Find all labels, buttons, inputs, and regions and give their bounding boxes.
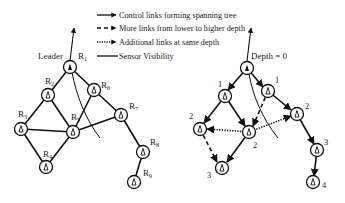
legend-item-control-links: Control links forming spanning tree (97, 11, 237, 20)
depth-label: 2 (189, 111, 193, 121)
node-label-r3: R3 (18, 109, 27, 120)
node-label-r2: R2 (45, 76, 54, 87)
depth-node (216, 162, 229, 175)
depth-label: 4 (322, 180, 327, 190)
left-labels: Leader R1 R2 R6 R3 R5 R7 R4 R8 R9 (18, 51, 159, 179)
legend-label: More links from lower to higher depth (119, 24, 245, 33)
node-label-r4: R4 (43, 149, 52, 160)
legend-item-lower-to-higher: More links from lower to higher depth (97, 24, 245, 33)
depth-label: 1 (275, 75, 279, 85)
leader-arrow (70, 28, 74, 61)
node-label-r5: R5 (71, 112, 80, 123)
robot-node-r3 (15, 123, 28, 136)
depth-label: 2 (253, 140, 257, 150)
leader-label: Leader (38, 51, 63, 61)
depth-label: 3 (324, 137, 328, 147)
spanning-tree-diagram: Control links forming spanning tree More… (0, 0, 345, 203)
node-label-r9: R9 (143, 168, 152, 179)
legend-label: Control links forming spanning tree (119, 11, 237, 20)
depth-node (194, 123, 207, 136)
node-label-r7: R7 (129, 101, 138, 112)
depth-node-root (241, 62, 254, 75)
depth-zero-label: Depth = 0 (251, 51, 288, 61)
robot-node-r5 (67, 126, 80, 139)
depth-node (243, 126, 256, 139)
depth-node (307, 176, 320, 189)
depth-node (219, 90, 232, 103)
robot-node-r4 (40, 161, 53, 174)
robot-node-r6 (88, 84, 101, 97)
legend-item-same-depth: Additional links at same depth (97, 38, 219, 47)
node-label-r8: R8 (150, 137, 159, 148)
node-label-r6: R6 (101, 80, 110, 91)
left-nodes (15, 61, 150, 189)
legend-label: Sensor Visibility (119, 52, 175, 61)
depth-node (291, 108, 304, 121)
legend: Control links forming spanning tree More… (97, 11, 245, 61)
robot-node-r1 (64, 61, 77, 74)
robot-node-r8 (137, 146, 150, 159)
node-label-r1: R1 (78, 51, 87, 62)
robot-node-r2 (42, 89, 55, 102)
right-labels: Depth = 0 1 1 2 2 2 3 3 4 (189, 51, 328, 190)
robot-node-r7 (115, 109, 128, 122)
depth-label: 2 (305, 101, 309, 111)
robot-node-r9 (128, 176, 141, 189)
legend-label: Additional links at same depth (119, 38, 219, 47)
depth-node (311, 144, 324, 157)
depth-label: 1 (218, 79, 222, 89)
depth-label: 3 (207, 170, 211, 180)
legend-item-sensor-visibility: Sensor Visibility (97, 52, 175, 61)
depth-node (262, 85, 275, 98)
